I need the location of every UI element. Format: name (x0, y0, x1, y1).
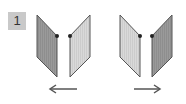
panel-diagram (0, 0, 186, 104)
hinge-dot-icon (68, 34, 72, 38)
light-panel (70, 15, 90, 77)
hinge-dot-icon (150, 34, 154, 38)
hinge-dot-icon (55, 34, 59, 38)
light-panel (120, 15, 140, 77)
left-panel-pair (37, 15, 90, 93)
arrow-left-icon (50, 85, 77, 93)
right-panel-pair (120, 15, 172, 93)
arrow-right-icon (134, 85, 160, 93)
dark-panel (37, 15, 57, 77)
hinge-dot-icon (138, 34, 142, 38)
dark-panel (152, 15, 172, 77)
